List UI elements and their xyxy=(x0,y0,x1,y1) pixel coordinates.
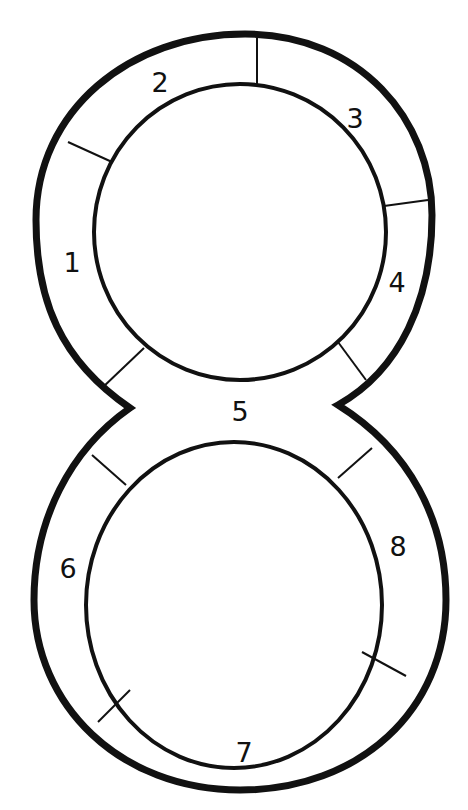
figure-eight-svg: 1 2 3 4 5 6 7 8 xyxy=(0,0,468,810)
segment-label-3: 3 xyxy=(346,103,363,134)
segment-label-1: 1 xyxy=(63,247,80,278)
segment-label-8: 8 xyxy=(389,531,406,562)
figure-eight-diagram: 1 2 3 4 5 6 7 8 xyxy=(0,0,468,810)
segment-label-4: 4 xyxy=(388,267,405,298)
segment-label-6: 6 xyxy=(59,553,76,584)
segment-label-5: 5 xyxy=(231,396,248,427)
segment-label-2: 2 xyxy=(151,67,168,98)
segment-label-7: 7 xyxy=(235,737,252,768)
